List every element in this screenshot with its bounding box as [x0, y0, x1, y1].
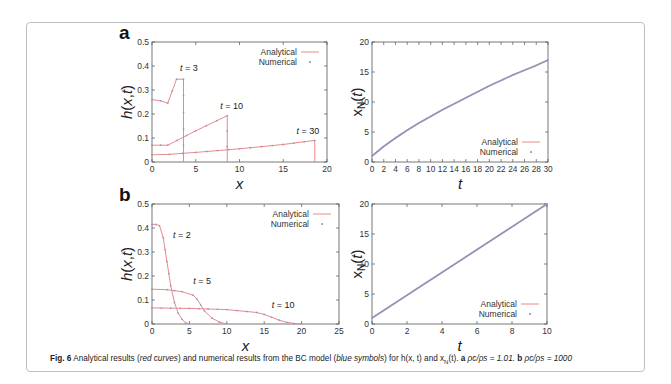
x-tick-label: 10 — [235, 164, 245, 174]
x-tick-label: 22 — [496, 164, 506, 174]
numerical-point — [182, 152, 184, 154]
numerical-point — [198, 308, 200, 310]
analytical-curve — [152, 140, 315, 162]
legend-analytical-label: Analytical — [482, 137, 518, 147]
x-tick-label: 4 — [440, 326, 445, 336]
numerical-point — [155, 224, 157, 226]
numerical-point — [196, 298, 198, 300]
x-tick-label: 26 — [520, 164, 530, 174]
numerical-point — [271, 145, 273, 147]
numerical-point — [293, 142, 295, 144]
numerical-point — [171, 90, 173, 92]
legend-numerical-label: Numerical — [480, 147, 518, 157]
numerical-point — [546, 203, 548, 205]
x-axis-label: x — [241, 337, 250, 354]
x-axis-label: t — [458, 175, 463, 192]
x-tick-label: 10 — [222, 326, 232, 336]
caption-text-2: ) and numerical results from the BC mode… — [178, 354, 336, 363]
caption-blue-symbols: blue symbols — [336, 354, 384, 363]
numerical-point — [314, 140, 316, 142]
y-tick-label: 0 — [364, 157, 369, 167]
legend-numerical-marker — [530, 151, 532, 153]
y-tick-label: 15 — [360, 67, 370, 77]
numerical-point — [176, 78, 178, 80]
legend-numerical-marker — [321, 223, 323, 225]
x-tick-label: 25 — [334, 326, 344, 336]
numerical-point — [151, 99, 153, 101]
y-tick-label: 0 — [144, 319, 149, 329]
numerical-point — [167, 102, 169, 104]
x-tick-label: 0 — [150, 164, 155, 174]
figure-caption: Fig. 6 Analytical results (red curves) a… — [50, 354, 572, 365]
y-tick-label: 5 — [364, 289, 369, 299]
y-axis-label: xN(t) — [348, 88, 367, 117]
x-tick-label: 5 — [187, 326, 192, 336]
numerical-point — [192, 294, 194, 296]
numerical-point — [278, 319, 280, 321]
numerical-point — [167, 144, 169, 146]
y-tick-label: 0.2 — [137, 271, 149, 281]
x-tick-label: 30 — [543, 164, 553, 174]
x-tick-label: 8 — [510, 326, 515, 336]
legend-numerical-label: Numerical — [479, 309, 517, 319]
plot-area-b-left — [152, 204, 339, 324]
numerical-point — [166, 289, 168, 291]
numerical-point — [183, 145, 185, 147]
numerical-point — [160, 100, 162, 102]
x-tick-label: 2 — [381, 164, 386, 174]
y-tick-label: 0 — [364, 319, 369, 329]
numerical-point — [246, 311, 248, 313]
numerical-point — [183, 78, 185, 80]
y-tick-label: 5 — [364, 127, 369, 137]
y-tick-label: 0 — [144, 157, 149, 167]
numerical-point — [181, 291, 183, 293]
numerical-point — [205, 125, 207, 127]
x-tick-label: 0 — [150, 326, 155, 336]
numerical-point — [293, 323, 295, 325]
x-tick-label: 2 — [405, 326, 410, 336]
numerical-point — [200, 304, 202, 306]
y-tick-label: 20 — [360, 37, 370, 47]
plot-area-a-right — [372, 42, 548, 162]
numerical-point — [151, 224, 153, 226]
caption-a-label: a — [461, 354, 466, 363]
x-tick-label: 10 — [542, 326, 552, 336]
numerical-point — [183, 111, 185, 113]
x-tick-label: 28 — [532, 164, 542, 174]
x-tick-label: 12 — [438, 164, 448, 174]
legend-analytical-label: Analytical — [481, 299, 517, 309]
numerical-point — [226, 309, 228, 311]
x-tick-label: 8 — [417, 164, 422, 174]
legend-numerical-marker — [309, 61, 311, 63]
curve-annotation: t = 5 — [193, 276, 211, 286]
analytical-curve — [152, 289, 227, 324]
analytical-curve — [152, 116, 227, 162]
numerical-point — [195, 152, 197, 154]
caption-text-1: Analytical results ( — [73, 354, 139, 363]
curve-annotation: t = 10 — [220, 101, 243, 111]
caption-a-eq: ρc/ρs = 1.01. — [468, 354, 515, 363]
numerical-point — [174, 302, 176, 304]
numerical-point — [547, 59, 549, 61]
y-tick-label: 0.2 — [137, 109, 149, 119]
analytical-curve — [372, 60, 548, 156]
x-tick-label: 20 — [297, 326, 307, 336]
legend-analytical-label: Analytical — [273, 209, 309, 219]
y-axis-label: h(x,t) — [118, 247, 135, 281]
y-axis-label: xN(t) — [348, 250, 367, 279]
x-tick-label: 20 — [485, 164, 495, 174]
y-tick-label: 0.3 — [137, 247, 149, 257]
legend-numerical-label: Numerical — [259, 57, 297, 67]
numerical-point — [303, 141, 305, 143]
numerical-point — [185, 322, 187, 324]
caption-b-eq: ρc/ρs = 1000 — [525, 354, 572, 363]
caption-label: Fig. 6 — [50, 354, 71, 363]
numerical-point — [263, 314, 265, 316]
numerical-point — [226, 146, 228, 148]
numerical-point — [174, 290, 176, 292]
caption-b-label: b — [517, 354, 522, 363]
numerical-point — [164, 249, 166, 251]
y-tick-label: 0.4 — [137, 61, 149, 71]
y-tick-label: 0.1 — [137, 295, 149, 305]
x-tick-label: 0 — [370, 164, 375, 174]
